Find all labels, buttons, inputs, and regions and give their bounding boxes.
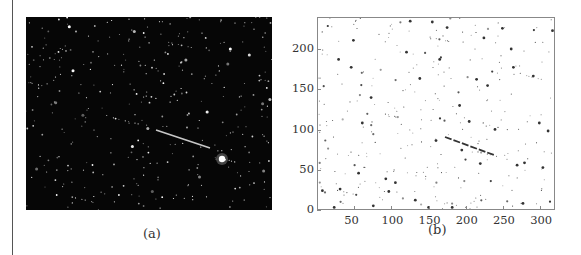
y-tick-mark <box>317 130 321 131</box>
y-tick-mark <box>317 49 321 50</box>
y-tick-mark <box>317 170 321 171</box>
x-tick-label: 200 <box>456 213 478 227</box>
x-tick-label: 300 <box>530 213 552 227</box>
y-tick-label: 50 <box>299 162 314 176</box>
x-tick-mark <box>429 206 430 210</box>
y-tick-label: 100 <box>292 122 314 136</box>
caption-a: (a) <box>143 226 161 241</box>
x-tick-mark <box>354 206 355 210</box>
x-tick-mark <box>466 206 467 210</box>
x-tick-label: 100 <box>381 213 403 227</box>
y-tick-label: 200 <box>292 41 314 55</box>
x-tick-mark <box>503 206 504 210</box>
x-tick-label: 50 <box>344 213 359 227</box>
scatter-plot-frame <box>317 17 555 210</box>
y-tick-label: 0 <box>307 202 314 216</box>
y-tick-mark <box>317 210 321 211</box>
x-tick-mark <box>540 206 541 210</box>
star-field-image <box>26 17 272 210</box>
y-tick-label: 150 <box>292 81 314 95</box>
margin-rule <box>12 0 13 255</box>
y-tick-mark <box>317 89 321 90</box>
caption-b: (b) <box>428 222 446 237</box>
x-tick-mark <box>391 206 392 210</box>
x-tick-label: 250 <box>493 213 515 227</box>
